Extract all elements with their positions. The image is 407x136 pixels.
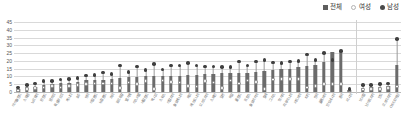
point-male[interactable] (195, 64, 199, 68)
bar-total[interactable] (110, 79, 113, 92)
point-male[interactable] (76, 76, 80, 80)
chart-category-group[interactable] (303, 22, 311, 92)
point-male[interactable] (16, 86, 20, 90)
point-male[interactable] (271, 61, 275, 65)
point-female[interactable] (263, 87, 267, 91)
point-female[interactable] (152, 87, 156, 91)
chart-category-group[interactable] (31, 22, 39, 92)
chart-category-group[interactable] (107, 22, 115, 92)
point-female[interactable] (25, 87, 29, 91)
chart-category-group[interactable] (376, 22, 384, 92)
point-male[interactable] (101, 71, 105, 75)
point-male[interactable] (59, 78, 63, 82)
legend-item-female[interactable]: 여성 (351, 4, 371, 11)
point-male[interactable] (331, 58, 335, 62)
point-male[interactable] (186, 61, 190, 65)
chart-category-group[interactable] (209, 22, 217, 92)
point-male[interactable] (110, 72, 114, 76)
bar-total[interactable] (280, 69, 283, 92)
point-female[interactable] (271, 78, 275, 82)
chart-category-group[interactable] (235, 22, 243, 92)
point-female[interactable] (395, 85, 399, 89)
point-male[interactable] (152, 62, 156, 66)
point-male[interactable] (361, 83, 365, 87)
point-male[interactable] (178, 64, 182, 68)
point-male[interactable] (144, 68, 148, 72)
point-male[interactable] (25, 83, 29, 87)
chart-category-group[interactable] (345, 22, 353, 92)
chart-category-group[interactable] (90, 22, 98, 92)
point-male[interactable] (263, 58, 267, 62)
bar-total[interactable] (246, 73, 249, 92)
point-male[interactable] (348, 87, 352, 91)
bar-total[interactable] (339, 52, 342, 92)
point-female[interactable] (84, 82, 88, 86)
point-male[interactable] (212, 65, 216, 69)
point-female[interactable] (322, 82, 326, 86)
chart-category-group[interactable] (269, 22, 277, 92)
point-female[interactable] (237, 82, 241, 86)
point-female[interactable] (101, 82, 105, 86)
point-male[interactable] (305, 53, 309, 57)
chart-category-group[interactable] (22, 22, 30, 92)
point-female[interactable] (331, 82, 335, 86)
chart-category-group[interactable] (82, 22, 90, 92)
point-male[interactable] (322, 51, 326, 55)
chart-category-group[interactable] (218, 22, 226, 92)
point-male[interactable] (314, 58, 318, 62)
chart-category-group[interactable] (320, 22, 328, 92)
chart-category-group[interactable] (14, 22, 22, 92)
point-male[interactable] (395, 37, 399, 41)
chart-category-group[interactable] (150, 22, 158, 92)
point-male[interactable] (67, 77, 71, 81)
chart-category-group[interactable] (65, 22, 73, 92)
point-male[interactable] (118, 64, 122, 68)
point-male[interactable] (93, 73, 97, 77)
point-female[interactable] (186, 84, 190, 88)
chart-category-group[interactable] (328, 22, 336, 92)
point-female[interactable] (339, 82, 343, 86)
legend-item-total[interactable]: 전체 (323, 4, 343, 11)
chart-category-group[interactable] (260, 22, 268, 92)
point-female[interactable] (288, 77, 292, 81)
chart-category-group[interactable] (252, 22, 260, 92)
point-male[interactable] (161, 68, 165, 72)
chart-category-group[interactable] (167, 22, 175, 92)
point-female[interactable] (50, 84, 54, 88)
bar-total[interactable] (169, 76, 172, 92)
chart-category-group[interactable] (201, 22, 209, 92)
point-male[interactable] (254, 60, 258, 64)
point-male[interactable] (50, 79, 54, 83)
chart-category-group[interactable] (73, 22, 81, 92)
point-female[interactable] (169, 80, 173, 84)
point-female[interactable] (314, 84, 318, 88)
chart-category-group[interactable] (337, 22, 345, 92)
bar-total[interactable] (127, 77, 130, 92)
chart-category-group[interactable] (294, 22, 302, 92)
chart-category-group[interactable] (141, 22, 149, 92)
point-male[interactable] (42, 79, 46, 83)
point-female[interactable] (135, 82, 139, 86)
point-female[interactable] (369, 87, 373, 91)
point-male[interactable] (246, 64, 250, 68)
point-male[interactable] (203, 65, 207, 69)
point-male[interactable] (297, 59, 301, 63)
bar-total[interactable] (322, 62, 325, 92)
point-female[interactable] (220, 86, 224, 90)
chart-category-group[interactable] (384, 22, 392, 92)
point-male[interactable] (84, 74, 88, 78)
chart-category-group[interactable] (56, 22, 64, 92)
bar-total[interactable] (229, 73, 232, 92)
chart-category-group[interactable] (158, 22, 166, 92)
point-female[interactable] (280, 77, 284, 81)
point-male[interactable] (339, 49, 343, 53)
point-female[interactable] (386, 86, 390, 90)
chart-category-group[interactable] (367, 22, 375, 92)
chart-category-group[interactable] (39, 22, 47, 92)
point-male[interactable] (237, 60, 241, 64)
bar-total[interactable] (203, 74, 206, 92)
point-male[interactable] (229, 65, 233, 69)
chart-category-group[interactable] (192, 22, 200, 92)
point-female[interactable] (254, 80, 258, 84)
chart-category-group[interactable] (393, 22, 401, 92)
